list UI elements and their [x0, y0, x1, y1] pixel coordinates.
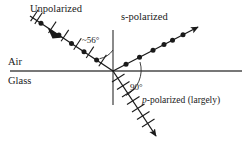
label-angle-ninety: 90° — [130, 83, 143, 92]
label-p-polarized-text: -polarized (largely) — [147, 95, 220, 105]
angle-arc-incidence — [100, 50, 114, 59]
label-medium-air: Air — [8, 57, 22, 68]
reflected-ray — [113, 27, 198, 71]
ray-diagram-svg — [0, 0, 252, 150]
label-unpolarized: Unpolarized — [30, 4, 82, 15]
label-medium-glass: Glass — [8, 76, 31, 87]
label-s-polarized: s-polarized — [121, 12, 168, 23]
label-angle-incidence: ~56° — [82, 36, 99, 45]
label-p-polarized: p-polarized (largely) — [142, 96, 220, 106]
incident-ray — [30, 10, 113, 71]
figure-canvas: Unpolarized s-polarized Air Glass ~56° 9… — [0, 0, 252, 150]
